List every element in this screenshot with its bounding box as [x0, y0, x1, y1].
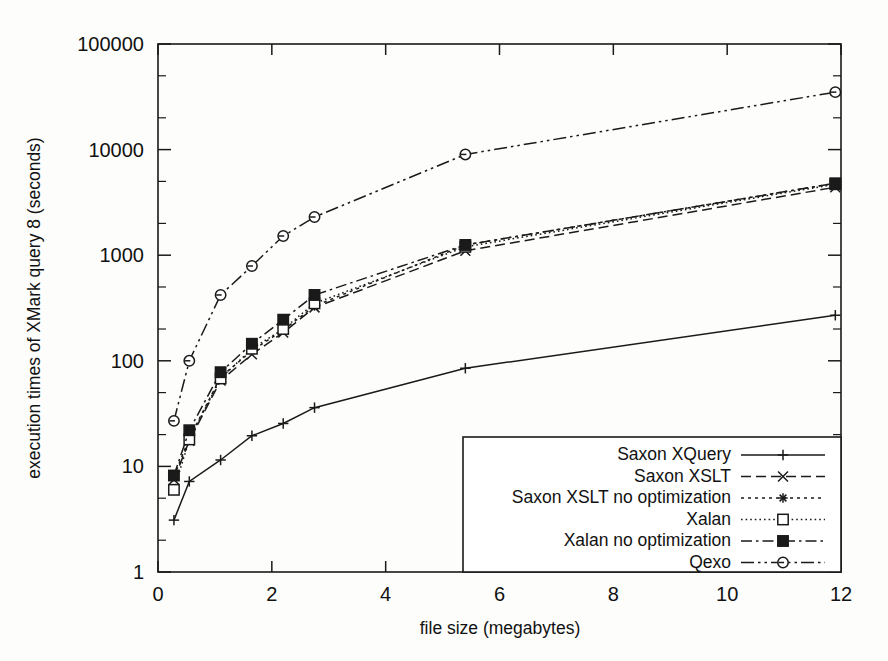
chart-canvas: 110100100010000100000 024681012 executio…: [0, 0, 888, 661]
x-tick-label: 8: [608, 583, 619, 605]
y-tick-label: 1: [133, 561, 144, 583]
x-tick-label: 6: [494, 583, 505, 605]
y-axis-title: execution times of XMark query 8 (second…: [24, 137, 44, 478]
x-tick-label: 10: [716, 583, 738, 605]
chart-figure: 110100100010000100000 024681012 executio…: [0, 0, 888, 661]
x-axis-tick-labels: 024681012: [152, 583, 852, 605]
legend-label-xalan-no-optimization: Xalan no optimization: [564, 530, 731, 550]
legend-marker-filled-square: [778, 536, 788, 546]
x-tick-label: 12: [830, 583, 852, 605]
y-tick-label: 100000: [77, 33, 144, 55]
x-tick-label: 2: [266, 583, 277, 605]
legend-marker-open-circle: [778, 557, 788, 567]
legend-label-saxon-xslt: Saxon XSLT: [634, 466, 731, 486]
series-qexo: [169, 87, 841, 426]
legend-marker-star: [778, 493, 787, 502]
chart-legend[interactable]: Saxon XQuerySaxon XSLTSaxon XSLT no opti…: [463, 437, 841, 572]
legend-label-saxon-xslt-no-optimization: Saxon XSLT no optimization: [512, 487, 731, 507]
y-axis-tick-labels: 110100100010000100000: [77, 33, 144, 583]
y-tick-label: 1000: [100, 244, 145, 266]
y-tick-label: 100: [111, 350, 144, 372]
legend-label-xalan: Xalan: [686, 509, 731, 529]
legend-label-qexo: Qexo: [689, 552, 731, 572]
legend-label-saxon-xquery: Saxon XQuery: [617, 444, 731, 464]
x-tick-label: 4: [380, 583, 391, 605]
y-tick-label: 10000: [88, 139, 144, 161]
x-axis-title: file size (megabytes): [420, 618, 580, 638]
y-tick-label: 10: [122, 455, 144, 477]
legend-marker-open-square: [778, 514, 788, 524]
x-tick-label: 0: [152, 583, 163, 605]
